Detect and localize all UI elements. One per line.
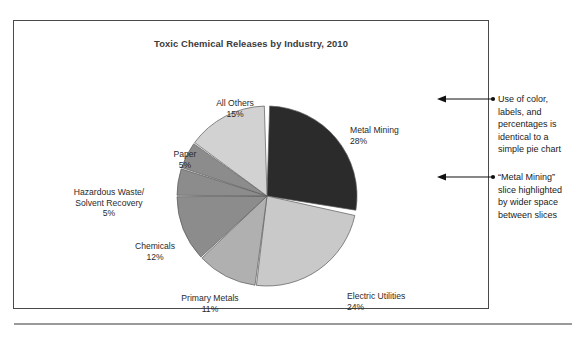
pie-slice-metal-mining[interactable] [267, 106, 357, 210]
slice-label-hazardous-waste: Hazardous Waste/ Solvent Recovery 5% [42, 187, 176, 219]
leader-arrow-2 [437, 171, 497, 183]
figure: Toxic Chemical Releases by Industry, 201… [0, 0, 586, 337]
slice-label-chemicals: Chemicals 12% [118, 241, 192, 262]
chart-panel: Toxic Chemical Releases by Industry, 201… [13, 20, 489, 309]
pie-svg [175, 104, 359, 288]
leader-arrow-1 [437, 93, 497, 105]
pie-slices [177, 106, 357, 286]
bottom-rule [14, 323, 572, 325]
slice-label-metal-mining: Metal Mining 28% [350, 125, 446, 146]
chart-title: Toxic Chemical Releases by Industry, 201… [14, 38, 488, 49]
annotation-metal-mining-highlight: “Metal Mining” slice highlighted by wide… [498, 171, 586, 221]
annotation-color-labels-percentages: Use of color, labels, and percentages is… [498, 93, 586, 156]
slice-label-primary-metals: Primary Metals 11% [160, 293, 260, 314]
slice-label-paper: Paper 5% [156, 149, 214, 170]
pie-slice-electric-utilities[interactable] [256, 196, 354, 286]
slice-label-all-others: All Others 15% [192, 98, 278, 119]
slice-label-electric-utilities: Electric Utilities 24% [347, 291, 457, 312]
pie-chart [175, 104, 359, 288]
